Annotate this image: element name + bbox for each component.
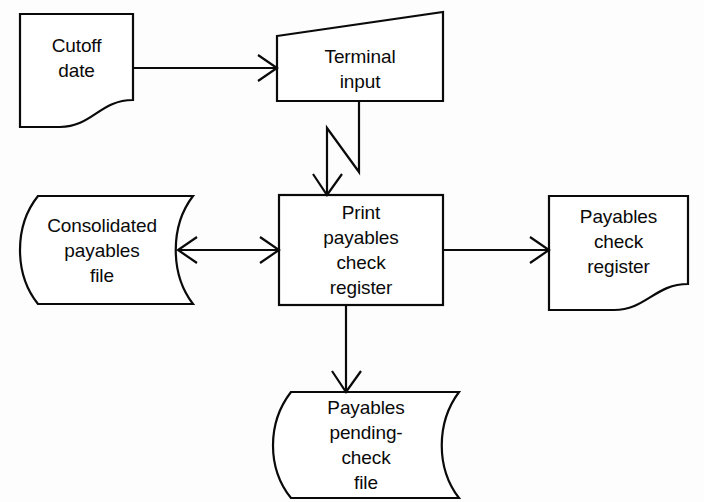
connector-terminal-to-print-zigzag [327,101,359,195]
node-shape-print-payables-check-register[interactable] [279,195,443,305]
node-shape-payables-pending-check-file[interactable] [273,392,459,498]
node-shape-payables-check-register[interactable] [549,196,688,310]
node-shape-cutoff-date[interactable] [20,14,133,127]
flowchart-canvas [0,0,704,502]
flowchart-diagram: Cutoff date Terminal input Consolidated … [0,0,704,502]
node-shape-consolidated-payables-file[interactable] [20,196,193,304]
node-shape-terminal-input[interactable] [277,12,443,101]
